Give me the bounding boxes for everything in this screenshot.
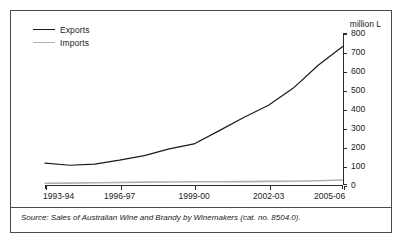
y-tick-label: 800 (351, 28, 365, 38)
chart-frame: Exports Imports million L Source: Sales … (10, 10, 392, 233)
line-exports (45, 46, 343, 165)
x-tick (195, 186, 196, 190)
source-note: Source: Sales of Australian Wine and Bra… (21, 213, 301, 222)
x-tick (46, 186, 47, 190)
y-tick (344, 167, 347, 168)
x-axis (45, 185, 343, 189)
y-tick-label: 700 (351, 47, 365, 57)
plot-area (45, 33, 343, 185)
y-axis (343, 33, 347, 185)
y-tick-label: 400 (351, 104, 365, 114)
y-tick-label: 100 (351, 161, 365, 171)
y-tick-label: 600 (351, 66, 365, 76)
y-tick (344, 91, 347, 92)
x-tick (344, 186, 345, 190)
x-tick-label: 1999-00 (179, 191, 210, 201)
footer-divider (11, 207, 391, 208)
x-tick-label: 1996-97 (104, 191, 135, 201)
y-tick (344, 72, 347, 73)
x-tick-label: 1993-94 (43, 191, 74, 201)
x-tick (121, 186, 122, 190)
y-tick (344, 53, 347, 54)
y-tick-label: 200 (351, 142, 365, 152)
y-tick-label: 0 (351, 180, 356, 190)
x-tick-label: 2002-03 (253, 191, 284, 201)
x-tick-label: 2005-06 (314, 191, 345, 201)
y-tick (344, 34, 347, 35)
y-tick-label: 300 (351, 123, 365, 133)
series-canvas (45, 33, 343, 185)
y-tick (344, 110, 347, 111)
y-tick (344, 148, 347, 149)
y-tick-label: 500 (351, 85, 365, 95)
y-tick (344, 129, 347, 130)
line-imports (45, 180, 343, 183)
legend-swatch-exports (33, 29, 55, 30)
x-tick (270, 186, 271, 190)
